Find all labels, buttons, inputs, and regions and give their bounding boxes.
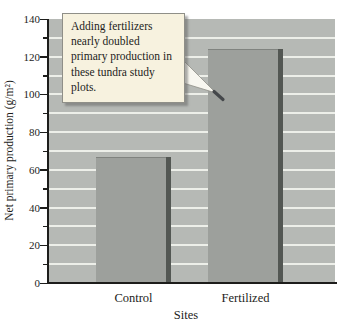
y-axis-tick-100 bbox=[40, 94, 48, 96]
y-axis-tick-0 bbox=[40, 283, 48, 285]
gridline-50 bbox=[48, 188, 335, 190]
y-axis-tick-label-60: 60 bbox=[14, 164, 40, 176]
bar-chart-figure: 020406080100120140 Net primary productio… bbox=[0, 0, 337, 325]
y-axis-tick-50 bbox=[43, 188, 48, 190]
bar-control bbox=[96, 157, 171, 283]
y-axis-tick-label-40: 40 bbox=[14, 202, 40, 214]
bar-face-fertilized bbox=[208, 49, 278, 283]
category-label-control: Control bbox=[79, 291, 189, 306]
y-axis-tick-120 bbox=[40, 56, 48, 58]
y-axis-tick-20 bbox=[40, 245, 48, 247]
y-axis-tick-130 bbox=[43, 37, 48, 39]
x-axis-line bbox=[47, 282, 337, 284]
y-axis-tick-label-0: 0 bbox=[14, 277, 40, 289]
y-axis-tick-40 bbox=[40, 207, 48, 209]
annotation-callout: Adding fertilizers nearly doubled primar… bbox=[62, 13, 185, 103]
y-axis-tick-80 bbox=[40, 132, 48, 134]
gridline-10 bbox=[48, 263, 335, 265]
y-axis-title: Net primary production (g/m²) bbox=[3, 35, 18, 267]
x-axis-title: Sites bbox=[136, 308, 236, 323]
y-axis-tick-label-20: 20 bbox=[14, 239, 40, 251]
y-axis-tick-30 bbox=[43, 226, 48, 228]
gridline-60 bbox=[48, 169, 335, 171]
gridline-20 bbox=[48, 244, 335, 246]
y-axis-tick-60 bbox=[40, 169, 48, 171]
bar-face-control bbox=[96, 157, 166, 283]
gridline-80 bbox=[48, 131, 335, 133]
gridline-40 bbox=[48, 207, 335, 209]
y-axis-tick-label-100: 100 bbox=[14, 88, 40, 100]
gridline-70 bbox=[48, 150, 335, 152]
y-axis-tick-110 bbox=[43, 75, 48, 77]
y-axis-tick-label-80: 80 bbox=[14, 126, 40, 138]
gridline-30 bbox=[48, 225, 335, 227]
bar-fertilized bbox=[208, 49, 283, 283]
category-label-fertilized: Fertilized bbox=[191, 291, 301, 306]
y-axis-tick-10 bbox=[43, 264, 48, 266]
bar-side-shadow-fertilized bbox=[278, 49, 283, 283]
y-axis-tick-90 bbox=[43, 113, 48, 115]
y-axis-tick-label-120: 120 bbox=[14, 51, 40, 63]
gridline-90 bbox=[48, 112, 335, 114]
y-axis-tick-140 bbox=[40, 19, 48, 21]
bar-side-shadow-control bbox=[166, 157, 171, 283]
y-axis-tick-70 bbox=[43, 151, 48, 153]
y-axis-tick-label-140: 140 bbox=[14, 13, 40, 25]
annotation-text: Adding fertilizers nearly doubled primar… bbox=[71, 20, 172, 93]
